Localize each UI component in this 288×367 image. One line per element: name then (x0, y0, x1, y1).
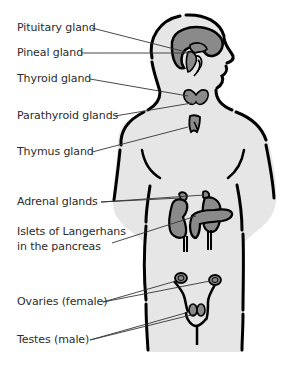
label-parathyroid-glands: Parathyroid glands (17, 109, 118, 122)
label-islets-line-2: in the pancreas (17, 239, 126, 254)
label-pineal-gland: Pineal gland (17, 46, 83, 59)
label-pituitary-gland: Pituitary gland (17, 21, 96, 34)
label-islets-of-langerhans: Islets of Langerhans in the pancreas (17, 224, 126, 254)
label-testes: Testes (male) (17, 333, 89, 346)
thymus-gland (189, 115, 200, 132)
label-thyroid-gland: Thyroid gland (17, 72, 91, 85)
endocrine-diagram: Pituitary gland Pineal gland Thyroid gla… (0, 0, 288, 367)
label-adrenal-glands: Adrenal glands (17, 195, 98, 208)
label-islets-line-1: Islets of Langerhans (17, 224, 126, 239)
label-thymus-gland: Thymus gland (17, 145, 94, 158)
label-ovaries: Ovaries (female) (17, 295, 107, 308)
